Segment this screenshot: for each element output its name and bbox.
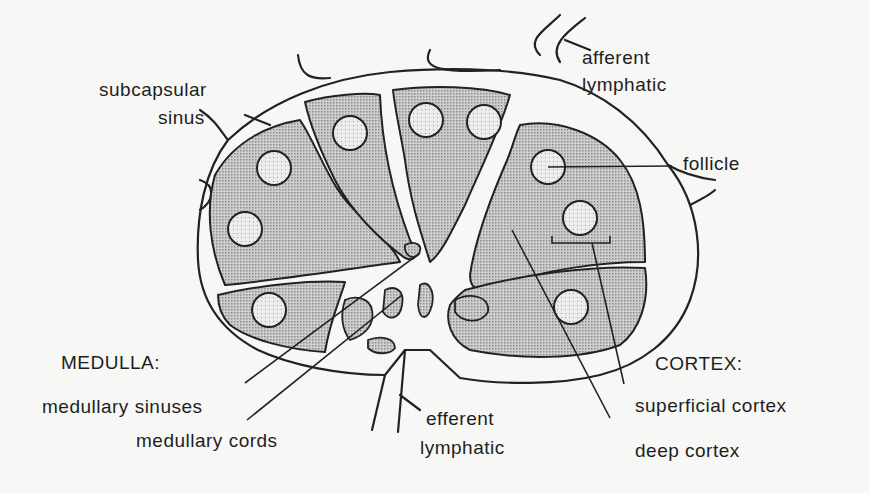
label-cortex-heading: CORTEX: (655, 353, 743, 375)
label-follicle: follicle (683, 153, 740, 175)
follicle (333, 116, 367, 150)
medullary-cord (455, 296, 488, 321)
label-deep-cortex: deep cortex (635, 440, 740, 462)
follicle (563, 201, 597, 235)
follicle (257, 151, 291, 185)
follicle (252, 293, 286, 327)
label-sinus: sinus (158, 107, 205, 129)
label-superficial-cortex: superficial cortex (635, 395, 787, 417)
label-afferent: afferent (582, 47, 650, 69)
follicle-pointer (548, 166, 672, 167)
label-afferent-lymphatic: lymphatic (582, 74, 667, 96)
afferent-lymphatic-vessel-top (535, 15, 585, 62)
follicle (409, 103, 443, 137)
label-efferent: efferent (426, 408, 494, 430)
medullary-cord (368, 338, 395, 354)
label-efferent-lymphatic: lymphatic (420, 437, 505, 459)
label-subcapsular: subcapsular (99, 79, 207, 101)
follicle (467, 105, 501, 139)
label-medullary-sinuses: medullary sinuses (42, 396, 203, 418)
label-medullary-cords: medullary cords (136, 430, 278, 452)
follicle (228, 212, 262, 246)
label-medulla-heading: MEDULLA: (61, 352, 160, 374)
